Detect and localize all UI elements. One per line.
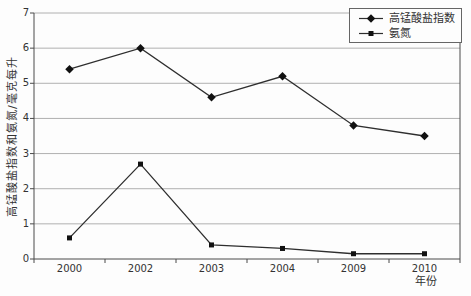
- legend: 高锰酸盐指数 氨氮: [349, 8, 462, 43]
- y-tick-label: 1: [8, 218, 29, 230]
- x-tick-label: 2004: [261, 263, 305, 275]
- y-tick-label: 2: [8, 183, 29, 195]
- data-point-square: [209, 242, 214, 247]
- x-tick-label: 2010: [403, 263, 447, 275]
- legend-item-ammonia-nitrogen: 氨氮: [359, 27, 461, 40]
- data-point-diamond: [349, 121, 357, 129]
- x-tick-label: 2000: [48, 263, 92, 275]
- x-tick-label: 2003: [190, 263, 234, 275]
- data-point-diamond: [65, 65, 73, 73]
- data-point-square: [138, 162, 143, 167]
- y-tick-label: 6: [8, 42, 29, 54]
- diamond-marker-icon: [359, 14, 383, 23]
- legend-label-ammonia-nitrogen: 氨氮: [389, 27, 411, 40]
- data-point-diamond: [136, 44, 144, 52]
- y-tick-label: 5: [8, 77, 29, 89]
- series-line-diamond: [70, 48, 425, 136]
- y-tick-label: 3: [8, 148, 29, 160]
- plot-area: [0, 0, 471, 296]
- data-point-square: [67, 235, 72, 240]
- data-point-diamond: [207, 93, 215, 101]
- data-point-square: [422, 251, 427, 256]
- line-chart: 高锰酸盐指数和氨氮/毫克每升 年份 高锰酸盐指数 氨氮 012345672000…: [0, 0, 471, 296]
- x-tick-label: 2002: [119, 263, 163, 275]
- x-tick-label: 2009: [332, 263, 376, 275]
- y-tick-label: 0: [8, 253, 29, 265]
- data-point-square: [351, 251, 356, 256]
- data-point-square: [280, 246, 285, 251]
- y-tick-label: 4: [8, 112, 29, 124]
- legend-label-permanganate-index: 高锰酸盐指数: [389, 12, 455, 25]
- data-point-diamond: [420, 132, 428, 140]
- square-marker-icon: [359, 29, 383, 38]
- y-tick-label: 7: [8, 7, 29, 19]
- data-point-diamond: [278, 72, 286, 80]
- series-line-square: [70, 164, 425, 254]
- legend-item-permanganate-index: 高锰酸盐指数: [359, 12, 461, 25]
